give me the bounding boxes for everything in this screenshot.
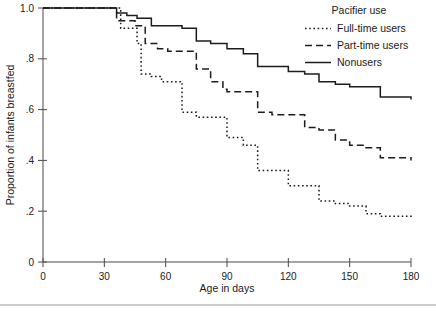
x-tick-label: 180 xyxy=(403,271,420,282)
legend-label: Full-time users xyxy=(337,22,406,34)
legend-item-nonusers[interactable]: Nonusers xyxy=(305,56,382,68)
kaplan-meier-chart: 0.2.4.6.81.0 0306090120150180 Age in day… xyxy=(0,0,436,311)
x-tick-label: 90 xyxy=(221,271,233,282)
y-tick-label: .4 xyxy=(26,155,35,166)
x-tick-label: 120 xyxy=(280,271,297,282)
y-axis-title: Proportion of infants breastfed xyxy=(4,65,16,206)
y-tick-label: 0 xyxy=(28,257,34,268)
x-tick-label: 30 xyxy=(99,271,111,282)
y-tick-label: 1.0 xyxy=(20,3,34,14)
legend-label: Part-time users xyxy=(337,39,408,51)
legend-items: Full-time usersPart-time usersNonusers xyxy=(305,22,408,68)
x-axis-title: Age in days xyxy=(200,282,255,294)
y-tick-label: .8 xyxy=(26,53,35,64)
x-axis-tick-labels: 0306090120150180 xyxy=(40,271,420,282)
legend-label: Nonusers xyxy=(337,56,382,68)
x-tick-label: 60 xyxy=(160,271,172,282)
x-axis: 0306090120150180 xyxy=(40,258,420,282)
chart-legend: Pacifier use Full-time usersPart-time us… xyxy=(305,4,408,68)
y-tick-label: .6 xyxy=(26,104,35,115)
x-tick-label: 150 xyxy=(341,271,358,282)
y-tick-label: .2 xyxy=(26,206,35,217)
legend-item-part-time-users[interactable]: Part-time users xyxy=(305,39,408,51)
legend-item-full-time-users[interactable]: Full-time users xyxy=(305,22,406,34)
x-tick-label: 0 xyxy=(40,271,46,282)
legend-title: Pacifier use xyxy=(332,4,387,16)
y-axis: 0.2.4.6.81.0 xyxy=(20,3,47,268)
chart-figure: 0.2.4.6.81.0 0306090120150180 Age in day… xyxy=(0,0,436,311)
y-axis-tick-labels: 0.2.4.6.81.0 xyxy=(20,3,34,268)
